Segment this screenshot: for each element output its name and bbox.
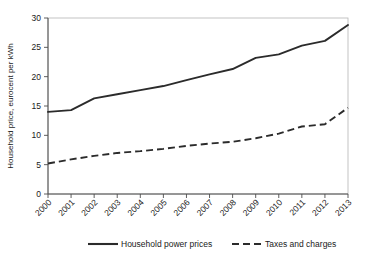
y-tick-label: 10 [32, 130, 42, 140]
legend-label-taxes-and-charges: Taxes and charges [265, 239, 336, 249]
y-tick-label: 30 [32, 13, 42, 23]
line-chart: 051015202530 200020012002200320042005200… [0, 0, 376, 260]
chart-canvas: 051015202530 200020012002200320042005200… [0, 0, 376, 260]
y-axis-title: Household price, eurocent per kWh [6, 43, 15, 168]
chart-legend: Household power pricesTaxes and charges [88, 239, 336, 249]
y-tick-label: 15 [32, 101, 42, 111]
y-tick-label: 0 [36, 189, 41, 199]
y-tick-label: 20 [32, 72, 42, 82]
legend-label-household-power-prices: Household power prices [121, 239, 212, 249]
y-tick-label: 25 [32, 42, 42, 52]
y-tick-label: 5 [36, 160, 41, 170]
chart-background [0, 0, 376, 260]
